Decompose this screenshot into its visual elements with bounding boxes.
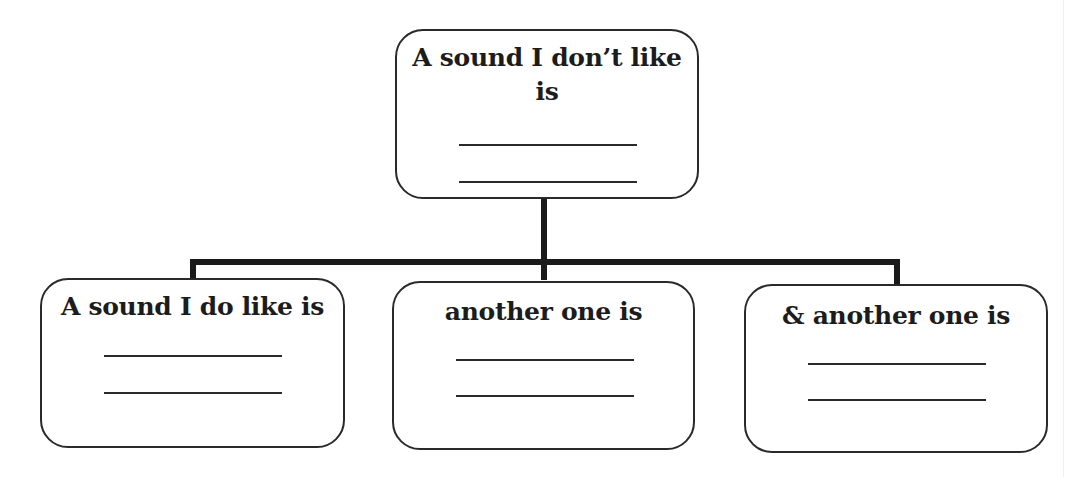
answer-line[interactable] <box>459 181 637 183</box>
root-connector <box>541 196 547 280</box>
child-node-3-title: & another one is <box>746 301 1046 331</box>
child-node-2: another one is <box>392 281 695 450</box>
answer-line[interactable] <box>104 355 282 357</box>
root-node-title-line1: A sound I don’t like <box>397 43 697 73</box>
answer-line[interactable] <box>456 395 634 397</box>
root-node-title-line2: is <box>397 77 697 107</box>
child-node-1-title: A sound I do like is <box>42 292 343 322</box>
answer-line[interactable] <box>808 363 986 365</box>
child-connector-right <box>894 259 900 285</box>
answer-line[interactable] <box>104 392 282 394</box>
branch-bar <box>190 259 900 265</box>
root-node: A sound I don’t like is <box>395 29 699 199</box>
page-edge <box>1063 0 1064 477</box>
answer-line[interactable] <box>459 144 637 146</box>
child-node-1: A sound I do like is <box>40 278 345 448</box>
child-node-2-title: another one is <box>394 297 693 327</box>
child-node-3: & another one is <box>744 284 1048 453</box>
answer-line[interactable] <box>456 359 634 361</box>
answer-line[interactable] <box>808 399 986 401</box>
